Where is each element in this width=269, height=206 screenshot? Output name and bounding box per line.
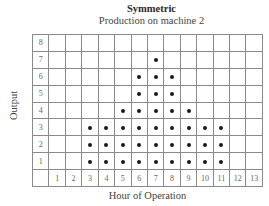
data-dot [203,160,207,164]
data-dot [121,109,125,113]
dot-plot-grid: 8765432112345678910111213 [32,34,263,187]
grid-cell [213,68,229,85]
grid-cell [82,51,98,68]
grid-cell [115,51,131,68]
grid-cell [197,35,213,52]
data-dot [154,126,158,130]
grid-cell [246,51,263,68]
x-axis-label: Hour of Operation [32,190,263,201]
grid-cell [98,51,114,68]
grid-cell [98,119,114,136]
grid-cell [197,119,213,136]
grid-cell [180,68,196,85]
grid-cell [230,119,246,136]
grid-cell [246,102,263,119]
grid-cell [230,85,246,102]
grid-cell [115,136,131,153]
grid-cell [115,102,131,119]
grid-cell [213,119,229,136]
grid-row-6: 6 [33,68,263,85]
grid-cell [246,136,263,153]
y-tick-label: 4 [33,102,49,119]
grid-cell [180,136,196,153]
grid-cell [164,119,180,136]
data-dot [88,143,92,147]
grid-cell [49,85,65,102]
grid-row-5: 5 [33,85,263,102]
grid-cell [115,68,131,85]
grid-cell [131,85,147,102]
grid-cell [131,35,147,52]
y-tick-label: 5 [33,85,49,102]
grid-cell [98,35,114,52]
data-dot [104,126,108,130]
data-dot [121,126,125,130]
grid-cell [82,85,98,102]
data-dot [88,126,92,130]
grid-cell [82,102,98,119]
grid-cell [164,102,180,119]
data-dot [154,143,158,147]
grid-cell [147,68,163,85]
grid-cell [246,68,263,85]
data-dot [137,143,141,147]
data-dot [88,160,92,164]
corner-cell [33,170,49,187]
grid-row-1: 1 [33,153,263,170]
grid-cell [98,102,114,119]
data-dot [187,160,191,164]
data-dot [154,92,158,96]
data-dot [203,143,207,147]
data-dot [121,160,125,164]
grid-cell [180,153,196,170]
grid-row-8: 8 [33,35,263,52]
grid-cell [98,68,114,85]
data-dot [219,143,223,147]
grid-cell [197,68,213,85]
grid-cell [213,102,229,119]
grid-cell [147,119,163,136]
grid-cell [180,85,196,102]
grid-cell [230,153,246,170]
y-tick-label: 8 [33,35,49,52]
grid-cell [246,35,263,52]
grid-cell [180,51,196,68]
grid-cell [82,35,98,52]
grid-cell [230,68,246,85]
data-dot [170,143,174,147]
data-dot [154,58,158,62]
grid-cell [115,119,131,136]
data-dot [137,109,141,113]
grid-cell [65,68,81,85]
data-dot [137,75,141,79]
grid-cell [49,136,65,153]
chart-subtitle: Production on machine 2 [0,15,269,26]
data-dot [154,75,158,79]
grid-cell [65,136,81,153]
data-dot [104,160,108,164]
x-tick-label: 10 [197,170,213,187]
x-tick-label: 13 [246,170,263,187]
y-tick-label: 1 [33,153,49,170]
data-dot [137,160,141,164]
grid-cell [147,85,163,102]
data-dot [137,126,141,130]
y-tick-label: 6 [33,68,49,85]
grid-cell [213,51,229,68]
x-tick-label: 5 [115,170,131,187]
grid-cell [197,85,213,102]
grid-row-3: 3 [33,119,263,136]
y-tick-label: 2 [33,136,49,153]
grid-cell [115,35,131,52]
grid-cell [65,153,81,170]
grid-cell [230,102,246,119]
grid-cell [164,68,180,85]
data-dot [187,109,191,113]
grid-cell [49,35,65,52]
grid-cell [147,35,163,52]
grid-cell [131,153,147,170]
grid-cell [197,102,213,119]
grid-cell [147,153,163,170]
grid-cell [197,136,213,153]
grid-cell [115,153,131,170]
